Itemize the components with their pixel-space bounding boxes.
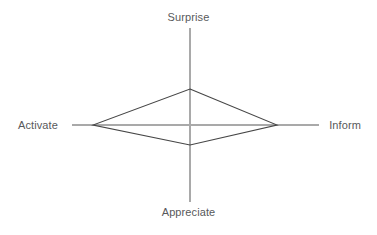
axis-label-surprise: Surprise — [0, 11, 377, 24]
axis-lines — [72, 28, 319, 202]
axis-label-appreciate: Appreciate — [0, 206, 377, 219]
axis-label-activate: Activate — [18, 119, 58, 132]
series-polygon — [93, 89, 277, 145]
axis-label-inform: Inform — [329, 119, 361, 132]
radar-chart: Surprise Inform Appreciate Activate — [0, 0, 377, 235]
series-shape-group — [93, 89, 277, 145]
radar-chart-canvas — [0, 0, 377, 235]
